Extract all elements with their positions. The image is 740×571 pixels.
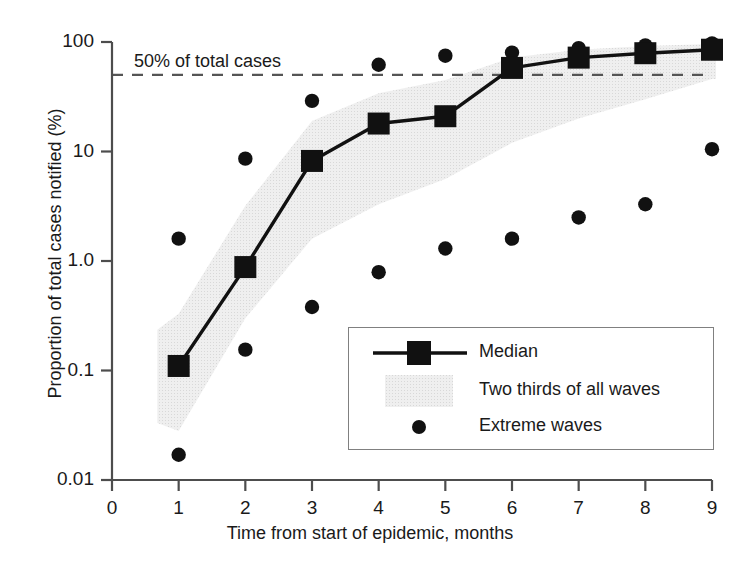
median-marker [501, 57, 523, 79]
y-tick-marks [101, 42, 112, 480]
extreme-wave-point [705, 142, 719, 156]
extreme-wave-point [371, 265, 385, 279]
median-marker [701, 39, 723, 61]
x-tick-label: 0 [82, 497, 142, 519]
extreme-wave-point [505, 231, 519, 245]
legend-symbol-circle [371, 408, 469, 446]
x-tick-label: 1 [149, 497, 209, 519]
extreme-wave-point [438, 48, 452, 62]
median-marker [634, 42, 656, 64]
threshold-annotation-label: 50% of total cases [131, 51, 284, 72]
legend-label-band: Two thirds of all waves [479, 379, 660, 400]
chart-legend: Median Two thirds of all waves Extreme w… [348, 327, 714, 450]
median-marker [168, 355, 190, 377]
extreme-wave-point [438, 241, 452, 255]
x-tick-label: 9 [682, 497, 740, 519]
median-marker [368, 113, 390, 135]
x-tick-label: 7 [549, 497, 609, 519]
x-tick-label: 2 [215, 497, 275, 519]
chart-plot-area [0, 0, 740, 571]
x-tick-marks [112, 480, 712, 491]
extreme-wave-point [371, 58, 385, 72]
extreme-wave-point [638, 197, 652, 211]
x-tick-label: 3 [282, 497, 342, 519]
legend-item-extreme: Extreme waves [349, 408, 713, 446]
extreme-wave-point [305, 94, 319, 108]
extreme-wave-point [171, 448, 185, 462]
extreme-wave-point [171, 231, 185, 245]
legend-item-band: Two thirds of all waves [349, 372, 713, 410]
extreme-wave-point [238, 342, 252, 356]
x-tick-label: 4 [349, 497, 409, 519]
legend-label-median: Median [479, 341, 538, 362]
extreme-wave-point [305, 300, 319, 314]
legend-label-extreme: Extreme waves [479, 415, 602, 436]
x-tick-label: 6 [482, 497, 542, 519]
chart-figure: 0.010.11.0101000123456789 50% of total c… [0, 0, 740, 571]
median-marker [234, 256, 256, 278]
legend-item-median: Median [349, 334, 713, 372]
x-tick-label: 5 [415, 497, 475, 519]
y-axis-title: Proportion of total cases notified (%) [45, 19, 66, 489]
extreme-wave-point [571, 210, 585, 224]
extreme-wave-point [238, 151, 252, 165]
median-marker [568, 47, 590, 69]
x-tick-label: 8 [615, 497, 675, 519]
legend-symbol-shaded-band [371, 372, 469, 410]
median-marker [301, 150, 323, 172]
legend-symbol-median-line [371, 334, 469, 372]
median-marker [434, 105, 456, 127]
x-axis-title: Time from start of epidemic, months [0, 523, 740, 544]
